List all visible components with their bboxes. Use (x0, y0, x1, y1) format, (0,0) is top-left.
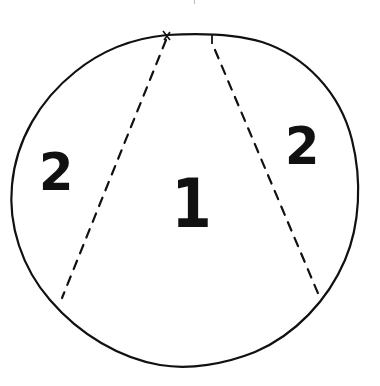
left-dashed-divider (62, 40, 166, 298)
right-region-label: 2 (285, 120, 319, 172)
left-region-label: 2 (39, 146, 73, 198)
top-edge-mark (194, 0, 195, 4)
center-region-label: 1 (172, 170, 212, 238)
